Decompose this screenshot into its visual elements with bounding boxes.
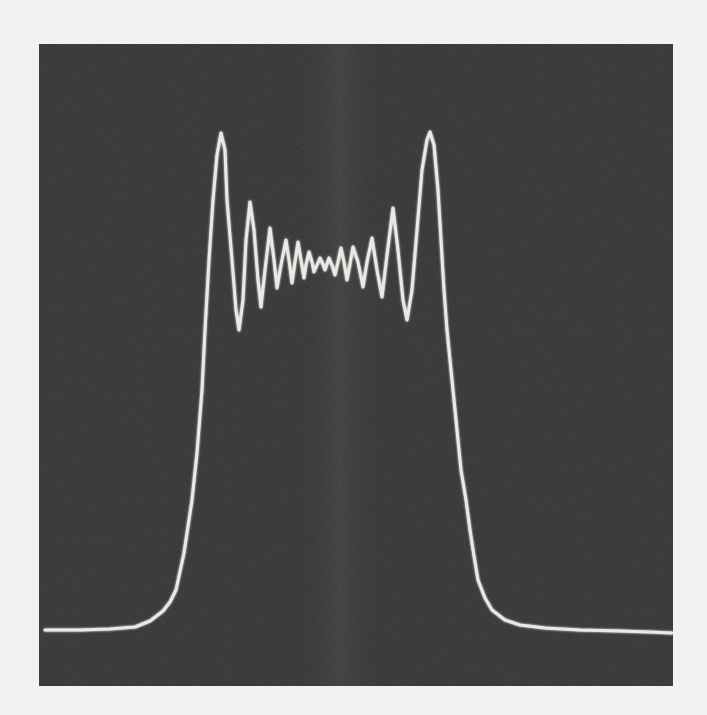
figure-page — [0, 0, 707, 715]
trace-plot — [39, 44, 673, 686]
oscilloscope-screen — [39, 44, 673, 686]
screen-noise — [39, 44, 673, 686]
